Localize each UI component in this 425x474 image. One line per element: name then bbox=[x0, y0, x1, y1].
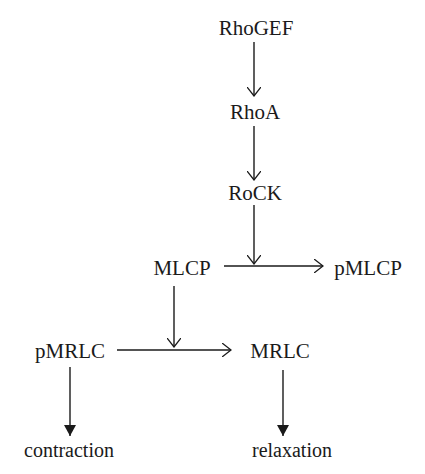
node-contraction: contraction bbox=[24, 440, 114, 460]
node-mlcp: MLCP bbox=[153, 258, 210, 279]
diagram-edges bbox=[0, 0, 425, 474]
node-rhoa: RhoA bbox=[230, 102, 280, 123]
node-pmlcp: pMLCP bbox=[334, 258, 402, 279]
pathway-diagram: RhoGEF RhoA RoCK MLCP pMLCP pMRLC MRLC c… bbox=[0, 0, 425, 474]
node-relaxation: relaxation bbox=[252, 440, 332, 460]
node-pmrlc: pMRLC bbox=[35, 341, 105, 362]
node-rock: RoCK bbox=[228, 183, 282, 204]
node-mrlc: MRLC bbox=[250, 341, 310, 362]
node-rhogef: RhoGEF bbox=[219, 18, 294, 39]
